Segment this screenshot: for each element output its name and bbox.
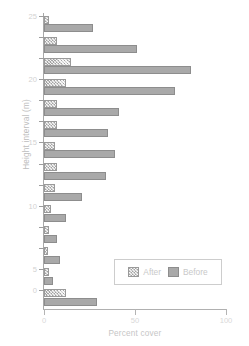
y-tick-label: 15 xyxy=(29,138,37,147)
bar-after xyxy=(44,121,57,129)
x-tick-label: 0 xyxy=(42,316,46,325)
legend-label-after: After xyxy=(143,267,161,277)
y-tick-label: 20 xyxy=(29,75,37,84)
bar-before xyxy=(44,214,66,222)
bar-before xyxy=(44,150,115,158)
bar-before xyxy=(44,129,108,137)
bar-after xyxy=(44,79,66,87)
bar-before xyxy=(44,108,119,116)
bar-after xyxy=(44,226,49,234)
x-tick-label: 100 xyxy=(220,316,233,325)
legend-label-before: Before xyxy=(183,267,208,277)
x-axis-title: Percent cover xyxy=(44,329,226,338)
bar-before xyxy=(44,66,191,74)
bar-after xyxy=(44,100,57,108)
bar-after xyxy=(44,205,51,213)
chart-legend: After Before xyxy=(114,259,222,285)
bar-before xyxy=(44,298,97,306)
bar-after xyxy=(44,184,55,192)
bar-after xyxy=(44,142,55,150)
bar-after xyxy=(44,37,57,45)
chart-root: Height interval (m) 2520151050050100 Aft… xyxy=(0,0,249,346)
bar-after xyxy=(44,16,49,24)
bar-before xyxy=(44,172,106,180)
bar-after xyxy=(44,163,57,171)
y-tick-label: 0 xyxy=(33,286,37,295)
bar-before xyxy=(44,193,82,201)
x-tick xyxy=(44,309,45,315)
bar-after xyxy=(44,247,48,255)
legend-swatch-before-icon xyxy=(168,267,179,277)
bar-after xyxy=(44,289,66,297)
y-tick-label: 5 xyxy=(33,265,37,274)
y-tick-label: 10 xyxy=(29,202,37,211)
y-axis-title: Height interval (m) xyxy=(22,65,31,205)
bar-after xyxy=(44,268,49,276)
legend-swatch-after-icon xyxy=(128,267,139,277)
bar-before xyxy=(44,235,57,243)
x-tick xyxy=(135,309,136,315)
x-tick-label: 50 xyxy=(131,316,139,325)
bar-before xyxy=(44,256,60,264)
bar-after xyxy=(44,58,71,66)
x-axis-ticks: 050100 xyxy=(44,309,226,329)
x-tick xyxy=(226,309,227,315)
legend-item-after: After xyxy=(128,267,161,277)
bar-before xyxy=(44,45,137,53)
y-tick-label: 25 xyxy=(29,12,37,21)
bar-before xyxy=(44,24,93,32)
legend-item-before: Before xyxy=(168,267,208,277)
bar-before xyxy=(44,87,175,95)
bar-before xyxy=(44,277,53,285)
